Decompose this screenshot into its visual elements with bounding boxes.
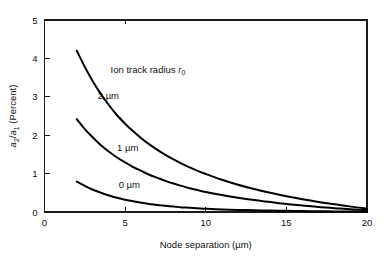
chart-plot: 05101520012345 2 µm1 µm0 µm Ion track ra…	[0, 0, 387, 267]
axes-group	[45, 20, 368, 212]
x-tick-label-3: 15	[281, 217, 292, 228]
y-tick-label-5: 5	[32, 15, 37, 26]
y-axis-title: a2/a1 (Percent)	[7, 85, 20, 148]
y-tick-label-2: 2	[32, 130, 37, 141]
y-tick-label-3: 3	[32, 91, 37, 102]
y-tick-label-1: 1	[32, 168, 37, 179]
y-tick-label-0: 0	[32, 207, 37, 218]
x-tick-label-4: 20	[362, 217, 373, 228]
tick-labels-group: 05101520012345	[32, 15, 372, 229]
x-tick-label-0: 0	[42, 217, 47, 228]
series-curve-1	[77, 119, 367, 210]
plot-frame	[45, 20, 368, 212]
x-tick-label-2: 10	[200, 217, 211, 228]
x-tick-label-1: 5	[122, 217, 127, 228]
curve-label-0: 2 µm	[98, 90, 119, 101]
curve-label-2: 0 µm	[119, 179, 140, 190]
annotation-group: Ion track radius r0	[111, 64, 186, 77]
annotation-ion-track-radius: Ion track radius r0	[111, 64, 186, 77]
figure-container: 05101520012345 2 µm1 µm0 µm Ion track ra…	[0, 0, 387, 267]
y-tick-label-4: 4	[32, 53, 37, 64]
x-axis-title: Node separation (µm)	[160, 239, 252, 250]
curve-labels-group: 2 µm1 µm0 µm	[98, 90, 140, 190]
curve-label-1: 1 µm	[117, 142, 138, 153]
